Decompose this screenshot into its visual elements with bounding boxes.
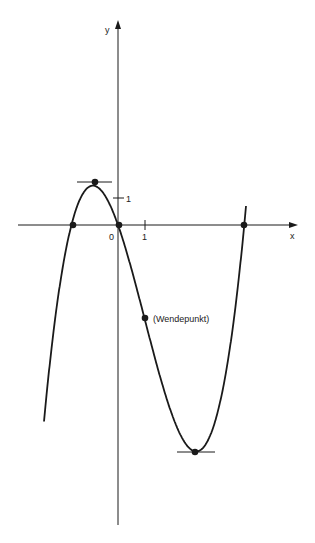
x-axis-arrow-icon [289,222,298,228]
curve-point [142,315,149,322]
curve-point [92,179,99,186]
x-axis-label: x [290,231,295,241]
function-graph: x y 1 1 0 (Wendepunkt) [0,0,315,543]
curve-point [70,222,77,229]
curve-point [241,222,248,229]
origin-label: 0 [109,232,114,242]
y-axis-label: y [105,25,110,35]
inflection-label: (Wendepunkt) [153,314,209,324]
y-axis-arrow-icon [115,20,121,29]
curve-point [116,222,123,229]
x-tick-label: 1 [142,232,147,242]
curve-point [192,449,199,456]
y-tick-label: 1 [126,194,131,204]
